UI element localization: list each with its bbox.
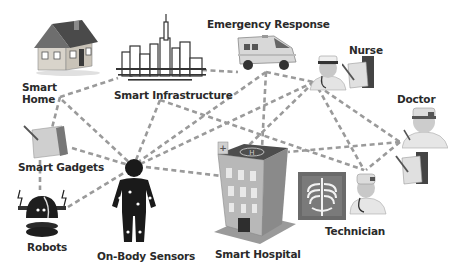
hospital-building-icon: H + [208,140,298,244]
ambulance-icon [234,32,300,72]
label-emergency-response: Emergency Response [207,18,330,30]
svg-text:H: H [249,149,254,157]
label-on-body-sensors: On-Body Sensors [97,250,195,262]
label-technician: Technician [325,225,385,237]
label-smart-hospital: Smart Hospital [215,248,301,260]
label-smart-home-line2: Home [22,93,55,105]
label-smart-home-line1: Smart [22,81,57,93]
doctor-clipboard-icon [394,150,430,186]
edge-nurse-hospital [246,82,314,148]
doctor-icon [402,104,448,150]
edge-home-infrastructure [60,78,118,97]
tablet-icon [20,124,70,160]
edge-nurse-doctor [318,86,400,142]
iot-healthcare-diagram: Smart Home Smart Infrastructure Emergenc… [0,0,462,271]
edge-ambulance-nurse [266,72,314,82]
edge-doctor-hospital [288,142,400,152]
label-smart-gadgets: Smart Gadgets [18,161,104,173]
technician-icon [348,168,388,218]
svg-text:+: + [219,143,227,153]
label-smart-infrastructure: Smart Infrastructure [114,89,233,101]
nurse-clipboard-icon [342,54,376,90]
xray-icon [298,172,348,222]
body-sensor-icon [110,158,158,244]
city-skyline-icon [114,14,210,86]
robot-icon [14,188,70,240]
house-icon [30,18,100,76]
label-robots: Robots [27,241,67,253]
